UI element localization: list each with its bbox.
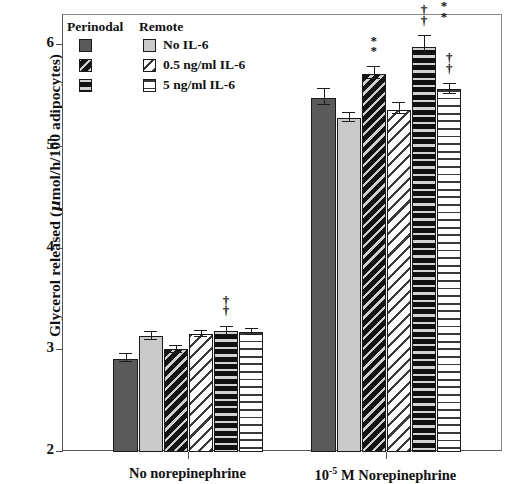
error-bar-cap-lower [245, 334, 258, 335]
error-bar-stem [374, 66, 375, 79]
error-bar-cap-lower [443, 93, 456, 94]
error-bar-cap-upper [317, 88, 330, 89]
bar [113, 359, 138, 452]
error-bar-cap-lower [367, 78, 380, 79]
legend-swatch-perinodal-5 [79, 79, 92, 92]
y-tick-mark [56, 44, 63, 45]
mu-symbol: µ [45, 200, 64, 211]
significance-symbol: * [367, 46, 381, 57]
bar [437, 89, 462, 452]
legend-swatch-remote-5 [143, 79, 156, 92]
y-tick-label: 5 [36, 136, 54, 153]
significance-marker: †† [219, 296, 233, 317]
bar [214, 331, 239, 452]
error-bar-cap-lower [418, 53, 431, 54]
legend-swatch-perinodal-no-il6 [79, 39, 92, 52]
y-tick-label: 3 [36, 339, 54, 356]
legend-label-5-ngml-il6: 5 ng/ml IL-6 [163, 77, 235, 93]
error-bar-cap-upper [392, 102, 405, 103]
error-bar-stem [424, 35, 425, 52]
significance-marker: †† [417, 5, 431, 26]
error-bar-stem [399, 102, 400, 113]
error-bar-cap-lower [194, 336, 207, 337]
legend-swatch-perinodal-05 [79, 59, 92, 72]
error-bar-stem [324, 88, 325, 104]
error-bar-stem [226, 326, 227, 334]
significance-symbol: † [417, 16, 431, 27]
legend: Perinodal Remote No IL-6 0.5 ng/ml IL-6 … [67, 19, 257, 96]
bar [337, 118, 362, 452]
exponent: -5 [329, 465, 337, 476]
legend-swatch-remote-no-il6 [143, 39, 156, 52]
error-bar-stem [449, 83, 450, 92]
x-tick-mark [386, 452, 387, 459]
significance-symbol: † [442, 64, 456, 75]
significance-symbol: † [219, 306, 233, 317]
bar [362, 74, 387, 452]
significance-marker: ** [437, 1, 451, 22]
legend-row: 5 ng/ml IL-6 [67, 76, 257, 96]
legend-header-remote: Remote [139, 19, 183, 35]
bar [412, 47, 437, 452]
significance-symbol: * [437, 12, 451, 23]
bar [164, 349, 189, 452]
error-bar-cap-lower [119, 361, 132, 362]
bar [239, 332, 264, 452]
bar [311, 98, 336, 452]
y-tick-mark [56, 349, 63, 350]
significance-marker: †† [442, 53, 456, 74]
legend-headers: Perinodal Remote [67, 19, 257, 36]
error-bar-cap-upper [119, 353, 132, 354]
y-tick-mark [56, 248, 63, 249]
error-bar-cap-upper [144, 331, 157, 332]
error-bar-cap-upper [220, 326, 233, 327]
legend-swatch-remote-05 [143, 59, 156, 72]
error-bar-cap-upper [342, 112, 355, 113]
y-tick-label: 4 [36, 238, 54, 255]
error-bar-cap-lower [317, 104, 330, 105]
legend-header-perinodal: Perinodal [67, 19, 123, 35]
legend-row: 0.5 ng/ml IL-6 [67, 56, 257, 76]
bar [189, 334, 214, 452]
x-axis-category-label: 10-5 M Norepinephrine [265, 465, 505, 484]
legend-label-no-il6: No IL-6 [163, 37, 208, 53]
error-bar-stem [126, 353, 127, 361]
error-bar-cap-lower [144, 339, 157, 340]
error-bar-cap-lower [220, 334, 233, 335]
legend-row: No IL-6 [67, 36, 257, 56]
y-tick-mark [56, 146, 63, 147]
y-axis-label: Glycerol released (µmol/h/100 adipocytes… [45, 46, 64, 346]
error-bar-cap-upper [194, 330, 207, 331]
legend-label-05-ngml-il6: 0.5 ng/ml IL-6 [163, 57, 245, 73]
error-bar-cap-lower [169, 352, 182, 353]
error-bar-cap-upper [367, 66, 380, 67]
error-bar-cap-lower [342, 121, 355, 122]
error-bar-cap-lower [392, 113, 405, 114]
significance-marker: ** [367, 36, 381, 57]
error-bar-stem [349, 112, 350, 121]
y-tick-label: 2 [36, 441, 54, 458]
bar [139, 336, 164, 452]
x-tick-mark [188, 452, 189, 459]
error-bar-cap-upper [443, 83, 456, 84]
error-bar-cap-upper [418, 35, 431, 36]
error-bar-stem [151, 331, 152, 339]
bar [387, 110, 412, 452]
error-bar-cap-upper [245, 328, 258, 329]
y-tick-mark [56, 451, 63, 452]
plot-area: 23456 ††**††**†† Perinodal Remote No IL-… [62, 14, 502, 451]
y-tick-label: 6 [36, 34, 54, 51]
error-bar-cap-upper [169, 345, 182, 346]
